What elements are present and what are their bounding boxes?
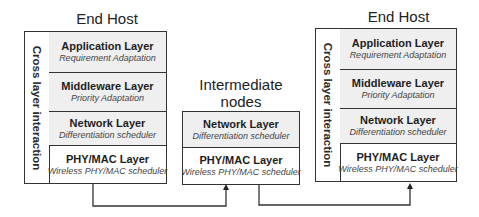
intermediate-to-right-arrow xyxy=(259,185,410,205)
left-to-intermediate-arrow xyxy=(93,184,226,206)
arrowhead-icon xyxy=(407,183,413,189)
arrowhead-icon xyxy=(223,184,229,190)
connection-arrows xyxy=(0,0,479,217)
